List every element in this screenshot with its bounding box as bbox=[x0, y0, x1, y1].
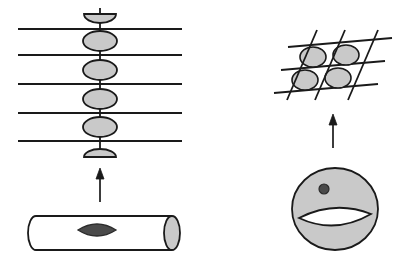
chain-node-ellipse-4 bbox=[83, 117, 117, 137]
chain-node-ellipse-2 bbox=[83, 60, 117, 80]
torus-node-dot bbox=[319, 184, 329, 194]
lattice-cell-4 bbox=[325, 68, 351, 88]
torus-with-node bbox=[292, 168, 378, 250]
chain-node-ellipse-3 bbox=[83, 89, 117, 109]
topology-diagram-svg bbox=[0, 0, 410, 262]
figure-root bbox=[0, 0, 410, 262]
chain-node-ellipse-1 bbox=[83, 31, 117, 51]
lattice-cell-1 bbox=[300, 47, 326, 67]
cylinder-with-vanishing-cycle bbox=[28, 216, 180, 250]
cylinder-end-cap bbox=[164, 216, 180, 250]
